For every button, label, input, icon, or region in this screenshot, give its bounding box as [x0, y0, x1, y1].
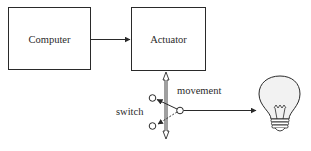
computer-node: Computer — [9, 8, 91, 70]
actuator-label: Actuator — [150, 34, 187, 45]
switch-pivot — [177, 107, 184, 114]
switch-label: switch — [116, 106, 144, 117]
movement-double-arrow — [163, 72, 169, 139]
switch-contact-top — [149, 95, 156, 102]
diagram-canvas: Computer Actuator movement switch — [0, 0, 311, 151]
light-bulb-icon — [259, 76, 300, 131]
switch-contact-bottom — [149, 123, 156, 130]
movement-label: movement — [177, 85, 221, 96]
computer-label: Computer — [29, 34, 71, 45]
actuator-node: Actuator — [132, 8, 206, 71]
